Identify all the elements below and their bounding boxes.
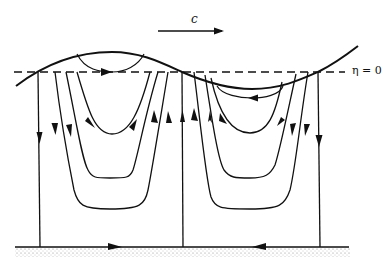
wave-streamline-diagram — [0, 0, 389, 271]
wave-speed-arrow — [158, 28, 224, 35]
mean-level-label: η = 0 — [352, 64, 382, 77]
crest-orbit-loop — [77, 54, 144, 72]
wave-speed-label: c — [191, 12, 198, 26]
left-cell-streamlines — [38, 72, 183, 247]
seabed-ground — [15, 247, 350, 257]
